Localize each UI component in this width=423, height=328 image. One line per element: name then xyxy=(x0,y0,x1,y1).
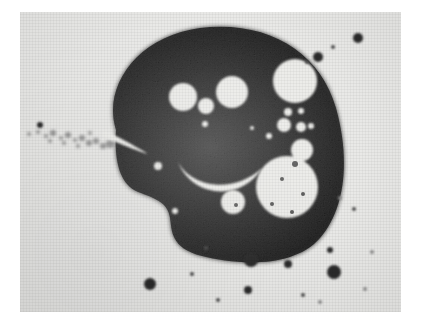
vacuole-cluster-a xyxy=(284,108,292,116)
vacuole-eye-right xyxy=(216,76,248,108)
vacuole-inner-dot-2 xyxy=(301,192,305,196)
speck-bottom-3 xyxy=(327,247,333,253)
trail-speck-1 xyxy=(36,130,40,134)
speck-bottom-2 xyxy=(284,260,292,268)
trail-speck-12 xyxy=(76,144,80,148)
trail-speck-10 xyxy=(100,143,106,149)
vacuole-cluster-f xyxy=(266,133,272,139)
speck-bottom-1 xyxy=(244,253,258,267)
trail-speck-5 xyxy=(65,132,71,138)
speck-bottom-7 xyxy=(216,298,220,302)
speck-bottom-5 xyxy=(144,278,156,290)
speck-inside-low xyxy=(204,246,208,250)
speck-mid-right-1 xyxy=(352,207,356,211)
trail-speck-7 xyxy=(79,135,85,141)
speck-bottom-11 xyxy=(363,287,367,291)
trail-speck-13 xyxy=(62,141,66,145)
scatter-trail xyxy=(27,130,114,149)
trail-speck-9 xyxy=(93,138,99,144)
trail-speck-4 xyxy=(59,136,63,140)
vacuole-nose-center xyxy=(198,98,214,114)
vacuole-cluster-b xyxy=(298,108,304,114)
vacuole-inner-dot-0 xyxy=(292,161,298,167)
vacuole-inner-dot-3 xyxy=(270,202,274,206)
trail-speck-0 xyxy=(27,132,31,136)
vacuole-bottom-large xyxy=(256,156,318,218)
speck-bottom-8 xyxy=(190,272,194,276)
speck-bottom-6 xyxy=(244,286,252,294)
trail-speck-2 xyxy=(44,134,48,138)
trail-speck-3 xyxy=(50,130,56,136)
speck-top-right-1 xyxy=(353,33,363,43)
trail-speck-14 xyxy=(48,139,52,143)
trail-speck-8 xyxy=(86,140,92,146)
specimen-grain xyxy=(20,12,401,312)
vacuole-cluster-e xyxy=(308,123,314,129)
speck-bottom-4 xyxy=(327,265,341,279)
vacuole-cluster-d xyxy=(296,122,306,132)
trail-speck-11 xyxy=(106,140,114,148)
micrograph-canvas xyxy=(20,12,401,312)
speck-top-right-4 xyxy=(305,60,309,64)
trail-speck-15 xyxy=(88,131,92,135)
screenshot-root xyxy=(0,0,423,328)
vacuole-cluster-c xyxy=(277,118,291,132)
speck-left-edge xyxy=(37,122,43,128)
vacuole-edge-dot xyxy=(250,126,254,130)
photographic-plate xyxy=(20,12,401,312)
vacuole-top-right-large xyxy=(273,59,317,103)
vacuole-eye-left xyxy=(169,83,197,111)
speck-mid-right-2 xyxy=(338,196,342,200)
speck-mid-right-3 xyxy=(370,250,374,254)
vacuole-nose-tiny xyxy=(202,121,208,127)
speck-top-right-2 xyxy=(313,52,323,62)
vacuole-edge-left-small xyxy=(154,162,162,170)
vacuole-inner-dot-4 xyxy=(290,210,294,214)
vacuole-inner-dot-1 xyxy=(280,177,284,181)
speck-bottom-10 xyxy=(318,300,322,304)
vacuole-inner-dot-5 xyxy=(234,203,238,207)
speck-bottom-9 xyxy=(301,293,305,297)
vacuole-bottom-small xyxy=(221,190,245,214)
speck-top-right-3 xyxy=(331,45,335,49)
vacuole-edge-bottom xyxy=(172,208,178,214)
trail-speck-6 xyxy=(73,138,77,142)
